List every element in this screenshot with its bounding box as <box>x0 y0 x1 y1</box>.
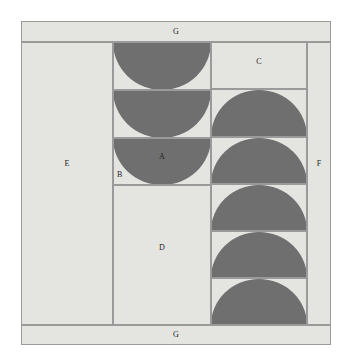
semicircle-up-icon <box>211 279 307 325</box>
region-right-semicircle-5 <box>211 278 307 325</box>
region-e: E <box>21 42 113 325</box>
region-right-semicircle-2 <box>211 137 307 184</box>
packing-diagram: G E A B D C F G <box>0 0 350 362</box>
semicircle-up-icon <box>211 90 307 137</box>
region-right-semicircle-3 <box>211 184 307 231</box>
region-middle-semicircle-1 <box>113 42 211 90</box>
region-d: D <box>113 185 211 325</box>
semicircle-up-icon <box>211 185 307 231</box>
region-c: C <box>211 42 307 89</box>
region-g-bottom: G <box>21 325 331 345</box>
semicircle-down-icon <box>113 138 211 185</box>
label-f: F <box>317 160 321 168</box>
label-g-top: G <box>173 28 179 36</box>
label-b: B <box>117 171 122 179</box>
label-c: C <box>256 58 261 66</box>
region-middle-semicircle-2 <box>113 90 211 138</box>
semicircle-down-icon <box>113 42 211 90</box>
region-g-top: G <box>21 21 331 42</box>
semicircle-up-icon <box>211 232 307 278</box>
semicircle-up-icon <box>211 138 307 184</box>
label-d: D <box>159 244 165 252</box>
label-g-bottom: G <box>173 331 179 339</box>
semicircle-down-icon <box>113 90 211 138</box>
region-a: A B <box>113 138 211 185</box>
region-right-semicircle-4 <box>211 231 307 278</box>
region-f: F <box>307 42 331 325</box>
label-a: A <box>159 153 165 161</box>
label-e: E <box>65 160 70 168</box>
region-right-semicircle-1 <box>211 89 307 137</box>
